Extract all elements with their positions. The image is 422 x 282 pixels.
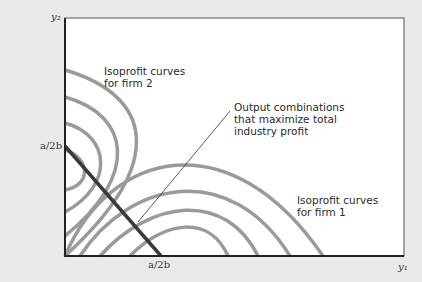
y-tick-label: a/2b — [40, 140, 62, 151]
profit-max-annotation-line2: that maximize total — [234, 113, 345, 125]
isoprofit-plot — [0, 0, 422, 282]
y-axis-label: y₂ — [51, 11, 61, 22]
firm2-annotation-line1: Isoprofit curves — [104, 65, 185, 77]
firm1-isoprofit-curves — [65, 165, 323, 256]
x-tick-label: a/2b — [148, 259, 170, 270]
annotation-pointer — [138, 111, 230, 222]
x-axis-label: y₁ — [398, 261, 408, 272]
firm1-annotation-line1: Isoprofit curves — [297, 194, 378, 206]
profit-max-annotation-line3: industry profit — [234, 125, 345, 137]
firm1-annotation-line2: for firm 1 — [297, 206, 378, 218]
profit-max-annotation: Output combinations that maximize total … — [234, 101, 345, 137]
firm2-annotation: Isoprofit curves for firm 2 — [104, 65, 185, 89]
profit-max-annotation-line1: Output combinations — [234, 101, 345, 113]
firm1-annotation: Isoprofit curves for firm 1 — [297, 194, 378, 218]
firm2-annotation-line2: for firm 2 — [104, 77, 185, 89]
